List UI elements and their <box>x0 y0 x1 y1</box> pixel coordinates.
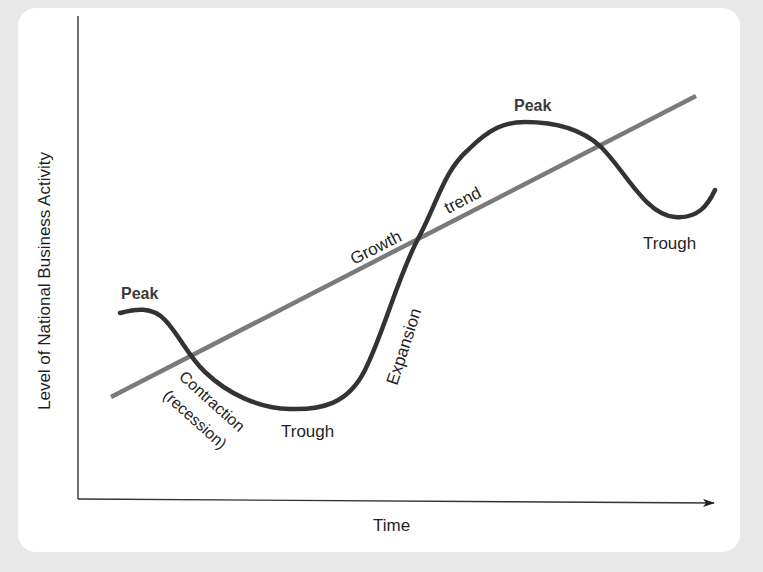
x-axis-label: Time <box>373 516 410 535</box>
business-cycle-diagram: Level of National Business Activity Time… <box>0 0 763 572</box>
trough-label-1: Trough <box>281 422 334 441</box>
peak-label-2: Peak <box>514 97 551 114</box>
peak-label-1: Peak <box>121 285 158 302</box>
trend-label: trend <box>441 183 484 218</box>
trough-label-2: Trough <box>643 234 696 253</box>
y-axis-label: Level of National Business Activity <box>35 152 54 410</box>
business-cycle-curve <box>120 122 715 409</box>
x-axis <box>78 499 714 503</box>
expansion-label: Expansion <box>383 306 426 387</box>
diagram-frame: Level of National Business Activity Time… <box>0 0 763 572</box>
